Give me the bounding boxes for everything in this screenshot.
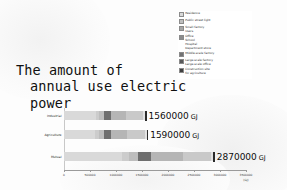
legend-item-label: Residence [185,12,200,16]
x-axis-tick [194,170,195,172]
x-axis-tick [142,170,143,172]
bar-value-label: 2870000GJ [217,152,266,162]
x-axis-tick-label: 0 [63,173,65,177]
bar-segment [111,130,128,139]
bar-value-unit: GJ [192,132,199,140]
bar-segment [64,111,96,120]
bar-end-marker [147,130,148,140]
x-axis-line [64,170,246,171]
bar-end-marker [213,152,214,162]
x-axis-tick-label: 1000000 [110,173,123,177]
bar-segment [64,130,95,139]
legend-swatch-icon [179,26,184,31]
bar-row: Industrial1560000GJ [64,111,246,120]
bar-segment [129,152,138,161]
bar-segment [183,152,211,161]
x-axis-unit-label: (GJ) [243,178,248,182]
bar-segment [151,152,182,161]
x-axis-tick [246,170,247,172]
y-axis-label: Industrial [47,114,62,118]
x-axis-tick-label: 1500000 [136,173,149,177]
bar-value-unit: GJ [191,113,198,121]
x-axis-tick-label: 3000000 [214,173,227,177]
bar-value-number: 1560000 [149,111,189,121]
legend-swatch-icon [179,52,184,57]
x-axis-tick-label: 2500000 [188,173,201,177]
title-line-1: The amount of [16,62,123,78]
legend-swatch-icon [179,12,184,17]
x-axis-tick-label: 2000000 [162,173,175,177]
bar-segment [111,111,127,120]
bar-segment [104,130,111,139]
legend-item-label: Small factory Users [185,26,204,34]
legend-item: Middle-scale factory [179,52,251,57]
legend-item: Office School Hospital Department store [179,35,251,50]
bar-value-number: 2870000 [217,152,257,162]
bar-value-label: 1590000GJ [150,130,199,140]
x-axis-tick [90,170,91,172]
slide-canvas: ResidencePublic street lightSmall factor… [0,0,287,190]
x-axis-tick [64,170,65,172]
legend-item-label: Office School Hospital Department store [185,35,211,50]
y-axis-label: Agriculture [44,133,61,137]
x-axis-tick [168,170,169,172]
x-axis-tick-label: 500000 [84,173,95,177]
bar-chart: Industrial1560000GJAgriculture1590000GJM… [0,104,287,190]
bar-segment [127,130,144,139]
bar-segment [122,152,129,161]
legend-item-label: Middle-scale factory [185,52,214,56]
bar-end-marker [145,111,146,121]
legend-swatch-icon [179,19,184,24]
bar-value-label: 1560000GJ [149,111,198,121]
bar-segment [126,111,143,120]
legend-swatch-icon [179,35,184,40]
bar-segment [138,152,151,161]
legend-item: Public street light [179,19,251,24]
bar-segment [104,111,111,120]
bar-row: Mutual2870000GJ [64,152,246,161]
x-axis-tick [220,170,221,172]
y-axis-label: Mutual [51,155,62,159]
x-axis-tick-label: 3500000 [240,173,253,177]
bar-segment [64,152,122,161]
legend-item-label: Public street light [185,19,210,23]
bar-value-number: 1590000 [150,130,190,140]
legend-item: Residence [179,12,251,17]
bar-value-unit: GJ [259,154,266,162]
legend-item: Small factory Users [179,26,251,34]
bar-row: Agriculture1590000GJ [64,130,246,139]
x-axis-tick [116,170,117,172]
plot-area: Industrial1560000GJAgriculture1590000GJM… [64,108,246,170]
